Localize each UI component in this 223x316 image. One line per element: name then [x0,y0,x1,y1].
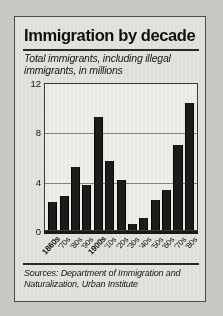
source-note: Sources: Department of Immigration and N… [24,268,196,289]
bar-slot [115,84,126,230]
y-axis-tick: 4 [36,176,41,187]
x-tick-slot: '10s [104,234,116,260]
bar-slot [127,84,138,230]
bar [117,180,126,230]
bar [162,190,171,230]
bar-slot [81,84,92,230]
y-axis-tick: 0 [36,226,41,237]
bar [128,224,137,230]
title-divider [23,49,199,51]
bar-slot [138,84,149,230]
x-tick-slot: '60s [161,234,173,260]
bar [71,167,80,230]
x-tick-slot: '80s [184,234,196,260]
x-tick-slot: '30s [127,234,139,260]
source-divider [23,263,199,265]
x-tick-slot: '70s [173,234,185,260]
bar-slot [93,84,104,230]
x-axis-labels: 1860s'70s'80s'90s1900s'10s'20s'30s'40s'5… [44,234,198,260]
bar [151,200,160,230]
bar [139,218,148,230]
x-tick-slot: 1860s [46,234,58,260]
bar-slot [58,84,69,230]
bar [60,196,69,230]
page-title: Immigration by decade [24,26,199,44]
x-tick-slot: '50s [150,234,162,260]
y-axis-labels: 04812 [24,83,42,231]
chart-figure: Immigration by decade Total immigrants, … [14,16,206,302]
x-tick-slot: '20s [115,234,127,260]
bar-series [45,84,197,230]
bar-slot [161,84,172,230]
bar [48,202,57,230]
bar [94,117,103,230]
y-axis-tick: 12 [30,78,41,89]
y-axis-tick: 8 [36,127,41,138]
bar-slot [47,84,58,230]
x-tick-slot: '40s [138,234,150,260]
bar-slot [184,84,195,230]
x-tick-slot: 1900s [92,234,104,260]
x-tick-slot: '70s [58,234,70,260]
bar-slot [150,84,161,230]
x-tick-slot: '80s [69,234,81,260]
bar [173,145,182,230]
bar [82,185,91,230]
x-axis-tick-label: '80s [184,235,200,251]
chart-subtitle: Total immigrants, including illegal immi… [24,53,196,76]
plot-area: 04812 1860s'70s'80s'90s1900s'10s'20s'30s… [24,83,198,255]
bar-slot [70,84,81,230]
bar [185,103,194,230]
bar-slot [104,84,115,230]
plot-frame [44,83,198,231]
bar [105,161,114,230]
bar-slot [172,84,183,230]
